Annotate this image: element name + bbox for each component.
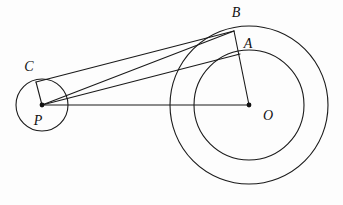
segment-PB: [42, 31, 234, 105]
geometry-diagram: A B C O P: [0, 0, 343, 205]
point-label-A: A: [243, 36, 253, 51]
point-label-O: O: [263, 108, 273, 123]
segment-PA: [42, 54, 240, 105]
geometry-canvas: A B C O P: [0, 0, 343, 205]
point-label-B: B: [232, 5, 241, 20]
segment-CB: [36, 31, 234, 82]
vertex-dot-P: [40, 103, 45, 108]
point-label-P: P: [33, 113, 43, 128]
point-label-C: C: [24, 59, 34, 74]
vertex-dot-O: [247, 103, 252, 108]
segment-PC: [36, 82, 42, 105]
